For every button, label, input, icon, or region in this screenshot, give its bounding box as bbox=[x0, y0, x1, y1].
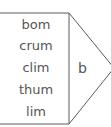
triangle-label: b bbox=[78, 60, 87, 76]
triangle-outline bbox=[69, 13, 111, 124]
word-item: bom bbox=[8, 17, 64, 33]
word-item: lim bbox=[8, 104, 64, 120]
word-item: thum bbox=[8, 82, 64, 98]
word-item: clim bbox=[8, 60, 64, 76]
word-item: crum bbox=[8, 38, 64, 54]
